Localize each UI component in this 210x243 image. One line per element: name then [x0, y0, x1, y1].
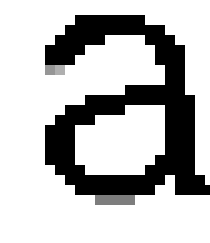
glyph-pixel	[95, 185, 105, 195]
glyph-pixel	[175, 185, 185, 195]
glyph-pixel	[55, 35, 65, 45]
glyph-pixel	[95, 25, 105, 35]
glyph-pixel	[95, 15, 105, 25]
glyph-pixel	[55, 115, 65, 125]
glyph-pixel	[145, 35, 155, 45]
glyph-pixel	[95, 105, 105, 115]
glyph-pixel	[195, 175, 205, 185]
glyph-pixel	[135, 175, 145, 185]
glyph-pixel	[105, 95, 115, 105]
glyph-pixel	[175, 135, 185, 145]
glyph-pixel	[95, 175, 105, 185]
glyph-pixel	[65, 175, 75, 185]
glyph-pixel	[45, 45, 55, 55]
glyph-pixel	[125, 185, 135, 195]
glyph-pixel	[95, 95, 105, 105]
glyph-pixel	[165, 65, 175, 75]
glyph-pixel	[185, 175, 195, 185]
glyph-pixel	[155, 175, 165, 185]
glyph-pixel	[45, 65, 55, 75]
glyph-pixel	[165, 85, 175, 95]
glyph-pixel	[175, 105, 185, 115]
glyph-pixel	[145, 25, 155, 35]
glyph-pixel	[65, 105, 75, 115]
glyph-pixel	[155, 165, 165, 175]
glyph-pixel	[85, 175, 95, 185]
glyph-pixel	[185, 95, 195, 105]
glyph-pixel	[115, 195, 125, 205]
glyph-pixel	[95, 35, 105, 45]
glyph-pixel	[55, 45, 65, 55]
glyph-pixel	[105, 175, 115, 185]
glyph-pixel	[75, 115, 85, 125]
glyph-pixel	[175, 125, 185, 135]
glyph-pixel	[115, 175, 125, 185]
glyph-pixel	[185, 155, 195, 165]
glyph-pixel	[185, 115, 195, 125]
glyph-pixel	[185, 165, 195, 175]
glyph-pixel	[165, 35, 175, 45]
glyph-pixel	[65, 115, 75, 125]
glyph-pixel	[145, 175, 155, 185]
glyph-pixel	[55, 165, 65, 175]
glyph-pixel	[115, 95, 125, 105]
glyph-pixel	[65, 35, 75, 45]
glyph-pixel	[45, 145, 55, 155]
glyph-pixel	[155, 45, 165, 55]
glyph-pixel	[185, 125, 195, 135]
glyph-pixel	[175, 155, 185, 165]
glyph-pixel	[165, 45, 175, 55]
glyph-pixel	[165, 95, 175, 105]
glyph-pixel	[175, 65, 185, 75]
glyph-pixel	[175, 75, 185, 85]
glyph-pixel	[55, 155, 65, 165]
glyph-pixel	[65, 135, 75, 145]
glyph-pixel	[185, 185, 195, 195]
glyph-pixel	[45, 155, 55, 165]
glyph-pixel	[75, 45, 85, 55]
glyph-pixel	[165, 105, 175, 115]
glyph-pixel	[155, 85, 165, 95]
glyph-pixel	[165, 55, 175, 65]
glyph-pixel	[205, 185, 210, 195]
glyph-pixel	[165, 135, 175, 145]
glyph-pixel	[65, 145, 75, 155]
glyph-pixel	[105, 15, 115, 25]
glyph-pixel	[55, 125, 65, 135]
glyph-pixel	[165, 145, 175, 155]
glyph-pixel	[175, 95, 185, 105]
glyph-pixel	[75, 185, 85, 195]
glyph-pixel	[105, 25, 115, 35]
glyph-pixel	[85, 25, 95, 35]
glyph-pixel	[135, 15, 145, 25]
glyph-pixel	[65, 125, 75, 135]
glyph-pixel	[115, 105, 125, 115]
glyph-pixel	[175, 165, 185, 175]
glyph-pixel	[85, 105, 95, 115]
glyph-pixel	[85, 15, 95, 25]
glyph-pixel	[115, 185, 125, 195]
glyph-pixel	[155, 55, 165, 65]
glyph-pixel	[165, 75, 175, 85]
glyph-pixel	[155, 35, 165, 45]
glyph-pixel	[145, 165, 155, 175]
glyph-pixel	[165, 165, 175, 175]
glyph-pixel	[55, 145, 65, 155]
glyph-pixel	[125, 25, 135, 35]
glyph-pixel	[85, 115, 95, 125]
glyph-pixel	[125, 85, 135, 95]
glyph-pixel	[155, 155, 165, 165]
glyph-pixel	[195, 185, 205, 195]
glyph-pixel	[65, 45, 75, 55]
glyph-pixel	[75, 175, 85, 185]
glyph-pixel	[65, 25, 75, 35]
glyph-pixel	[125, 15, 135, 25]
glyph-pixel	[155, 95, 165, 105]
glyph-pixel	[175, 55, 185, 65]
glyph-pixel	[75, 165, 85, 175]
glyph-pixel	[55, 65, 65, 75]
glyph-pixel	[145, 95, 155, 105]
glyph-pixel	[45, 135, 55, 145]
pixelated-letter-a-glyph	[0, 0, 210, 243]
glyph-pixel	[65, 165, 75, 175]
